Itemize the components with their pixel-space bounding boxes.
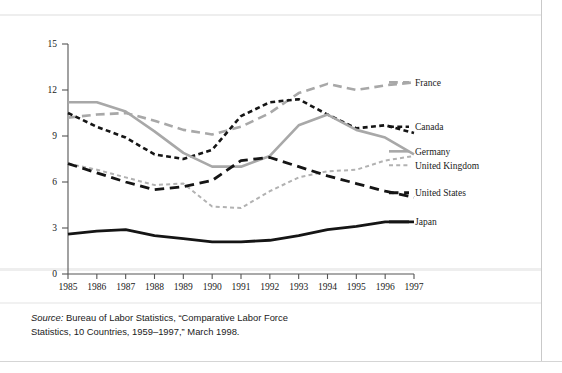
x-tick-label-1994: 1994: [318, 282, 337, 292]
unemployment-rate-line-chart: 03691215 1985198619871988198919901991199…: [0, 0, 562, 300]
legend-label-france: France: [415, 78, 441, 88]
series-line-japan: [68, 222, 414, 242]
x-axis-ticks: [68, 274, 414, 279]
x-tick-label-1987: 1987: [116, 282, 135, 292]
series-line-germany: [68, 102, 414, 166]
y-tick-label-0: 0: [52, 269, 57, 279]
series-line-united-kingdom: [68, 156, 414, 208]
legend-label-united-states: United States: [415, 188, 466, 198]
x-tick-label-1995: 1995: [347, 282, 366, 292]
chart-series-lines: [68, 82, 414, 241]
x-tick-label-1990: 1990: [203, 282, 222, 292]
legend-label-germany: Germany: [415, 147, 451, 157]
series-line-united-states: [68, 157, 414, 197]
chart-legend: FranceCanadaGermanyUnited KingdomUnited …: [389, 78, 480, 228]
source-note-body: Bureau of Labor Statistics, “Comparative…: [31, 312, 288, 337]
page-edge-bottom: [0, 361, 562, 362]
x-tick-label-1997: 1997: [405, 282, 424, 292]
page-rule-lower: [0, 302, 541, 304]
x-tick-label-1992: 1992: [260, 282, 279, 292]
chart-axes: [68, 44, 414, 274]
x-tick-label-1988: 1988: [145, 282, 164, 292]
source-note-lead: Source:: [31, 312, 63, 323]
x-tick-label-1996: 1996: [376, 282, 395, 292]
y-axis-ticks: [62, 44, 68, 274]
y-axis-tick-labels: 03691215: [48, 39, 58, 279]
source-note: Source: Bureau of Labor Statistics, “Com…: [31, 311, 321, 338]
y-tick-label-15: 15: [48, 39, 58, 49]
series-line-canada: [68, 99, 414, 159]
y-tick-label-6: 6: [52, 177, 57, 187]
y-tick-label-12: 12: [48, 85, 58, 95]
figure-page: 03691215 1985198619871988198919901991199…: [0, 0, 562, 373]
x-tick-label-1991: 1991: [232, 282, 251, 292]
y-tick-label-3: 3: [52, 223, 57, 233]
legend-label-japan: Japan: [415, 217, 437, 227]
x-tick-label-1985: 1985: [59, 282, 78, 292]
y-tick-label-9: 9: [52, 131, 57, 141]
x-tick-label-1989: 1989: [174, 282, 193, 292]
x-tick-label-1986: 1986: [87, 282, 106, 292]
x-axis-tick-labels: 1985198619871988198919901991199219931994…: [59, 282, 424, 292]
legend-label-united-kingdom: United Kingdom: [415, 161, 480, 171]
x-tick-label-1993: 1993: [289, 282, 308, 292]
legend-label-canada: Canada: [415, 122, 444, 132]
